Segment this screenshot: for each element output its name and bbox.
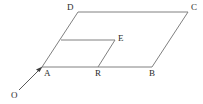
- ray-O-A: [19, 67, 43, 91]
- vertex-label-D: D: [67, 3, 74, 12]
- geometry-canvas: [0, 0, 203, 104]
- vertex-label-A: A: [44, 69, 51, 78]
- vertex-label-E: E: [118, 34, 124, 43]
- vertex-label-B: B: [149, 69, 155, 78]
- vertex-label-R: R: [95, 69, 101, 78]
- geometry-figure: D C E A R B O: [0, 0, 203, 104]
- segment-C-B: [152, 12, 188, 67]
- ray-O-A-line: [19, 69, 40, 90]
- segment-E-R: [98, 40, 115, 67]
- vertex-label-C: C: [191, 3, 197, 12]
- arrowhead-icon: [36, 67, 43, 73]
- inner-parallelogram: [61, 40, 115, 67]
- vertex-label-O: O: [11, 91, 18, 100]
